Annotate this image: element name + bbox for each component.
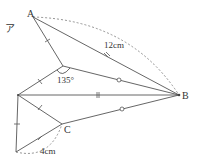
- label-A: A: [27, 8, 35, 19]
- geometry-diagram: ア A B C 12cm 135° 4cm: [0, 0, 199, 163]
- label-AB-length: 12cm: [104, 40, 124, 50]
- label-angle-mark: ア: [5, 23, 15, 34]
- circle-mark-DB: [117, 78, 121, 82]
- label-C-length: 4cm: [40, 146, 56, 156]
- segment-P-E: [16, 95, 18, 152]
- segment-P-C: [18, 95, 62, 124]
- label-B: B: [182, 90, 189, 101]
- tick-AD: [45, 39, 50, 42]
- vertex-B-dot: [178, 94, 181, 97]
- label-C: C: [64, 124, 71, 135]
- segment-A-D: [33, 17, 63, 66]
- circle-mark-CB: [120, 107, 124, 111]
- segment-A-B: [33, 17, 179, 95]
- label-angle-135: 135°: [57, 75, 75, 85]
- vertex-P-dot: [17, 94, 19, 96]
